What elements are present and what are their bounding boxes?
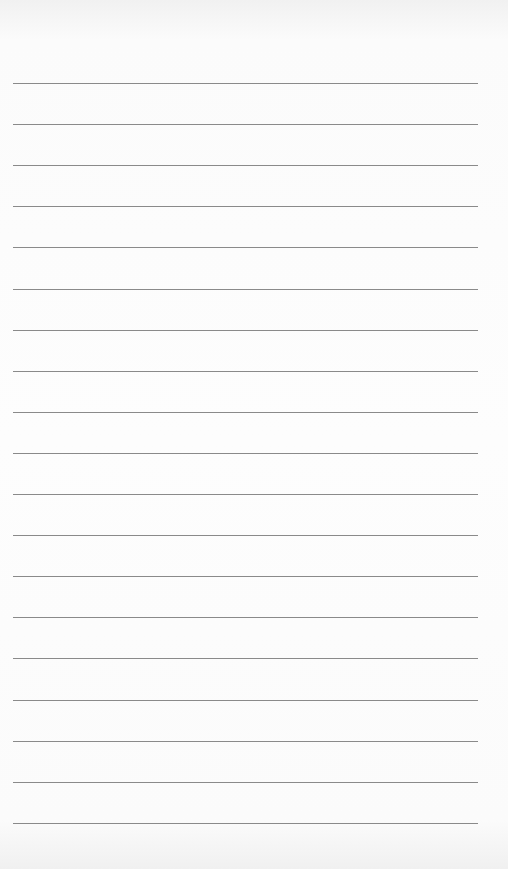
ruled-line bbox=[13, 124, 478, 125]
ruled-line bbox=[13, 206, 478, 207]
ruled-line bbox=[13, 412, 478, 413]
ruled-line bbox=[13, 330, 478, 331]
ruled-line bbox=[13, 823, 478, 824]
ruled-line bbox=[13, 782, 478, 783]
ruled-line bbox=[13, 371, 478, 372]
ruled-line bbox=[13, 535, 478, 536]
ruled-line bbox=[13, 289, 478, 290]
ruled-line bbox=[13, 700, 478, 701]
lined-paper-sheet bbox=[0, 0, 508, 869]
ruled-line bbox=[13, 576, 478, 577]
ruled-line bbox=[13, 247, 478, 248]
ruled-line bbox=[13, 453, 478, 454]
ruled-line bbox=[13, 494, 478, 495]
ruled-line bbox=[13, 83, 478, 84]
ruled-line bbox=[13, 741, 478, 742]
ruled-line bbox=[13, 617, 478, 618]
ruled-line bbox=[13, 165, 478, 166]
ruled-line bbox=[13, 658, 478, 659]
